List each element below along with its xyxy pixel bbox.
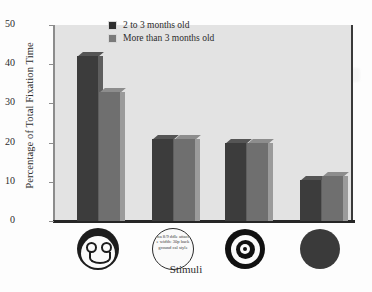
bar-front-face bbox=[174, 139, 195, 221]
bar-front-face bbox=[247, 143, 268, 221]
chart-legend: 2 to 3 months old More than 3 months old bbox=[108, 19, 214, 45]
bar-group bbox=[225, 25, 277, 221]
bar bbox=[322, 176, 343, 221]
bar bbox=[152, 139, 173, 221]
bar-front-face bbox=[152, 139, 173, 221]
bar bbox=[174, 139, 195, 221]
bar bbox=[247, 143, 268, 221]
bullseye-center bbox=[243, 247, 247, 251]
legend-item: More than 3 months old bbox=[108, 32, 214, 45]
bar-front-face bbox=[225, 143, 246, 221]
bar-side-face bbox=[120, 92, 125, 221]
bar-series-container bbox=[55, 25, 353, 221]
y-tick-label: 40 bbox=[0, 57, 15, 68]
bar-group bbox=[77, 25, 129, 221]
bullseye-ring bbox=[231, 235, 260, 264]
bar-front-face bbox=[322, 176, 343, 221]
bar bbox=[225, 143, 246, 221]
y-tick-label: 30 bbox=[0, 96, 15, 107]
y-tick-label: 10 bbox=[0, 175, 15, 186]
bar bbox=[99, 92, 120, 221]
legend-swatch-icon bbox=[108, 21, 117, 30]
bar-front-face bbox=[77, 56, 98, 221]
legend-label: More than 3 months old bbox=[123, 32, 214, 45]
y-tick-label: 0 bbox=[0, 214, 15, 225]
y-tick-mark bbox=[49, 25, 54, 26]
y-axis-title: Percentage of Total Fixation Time bbox=[24, 8, 35, 223]
y-tick-mark bbox=[49, 64, 54, 65]
bullseye-ring bbox=[240, 244, 250, 254]
bar-side-face bbox=[343, 176, 348, 221]
y-tick-mark bbox=[49, 143, 54, 144]
bar-chart-figure: Percentage of Total Fixation Time 010203… bbox=[0, 0, 372, 292]
bar bbox=[300, 180, 321, 221]
legend-label: 2 to 3 months old bbox=[123, 19, 190, 32]
legend-swatch-icon bbox=[108, 34, 117, 43]
bar-front-face bbox=[300, 180, 321, 221]
bar-group bbox=[152, 25, 204, 221]
y-tick-mark bbox=[49, 103, 54, 104]
y-tick-label: 50 bbox=[0, 18, 15, 29]
bar-side-face bbox=[195, 139, 200, 221]
x-axis-title: Stimuli bbox=[0, 263, 372, 275]
y-tick-label: 20 bbox=[0, 136, 15, 147]
bar-side-face bbox=[268, 143, 273, 221]
bar bbox=[77, 56, 98, 221]
bullseye-ring bbox=[236, 240, 255, 259]
y-tick-mark bbox=[49, 182, 54, 183]
bar-front-face bbox=[99, 92, 120, 221]
y-tick-mark bbox=[49, 221, 54, 222]
bar-group bbox=[300, 25, 352, 221]
legend-item: 2 to 3 months old bbox=[108, 19, 214, 32]
